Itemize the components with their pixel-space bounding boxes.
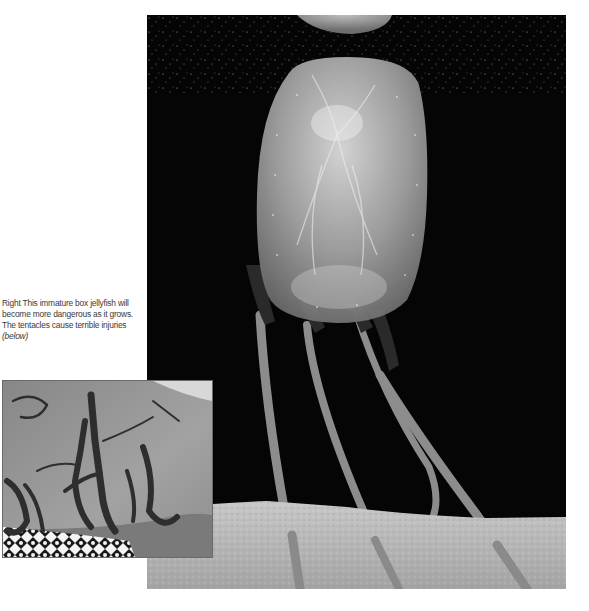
sting-injury-photo [3, 381, 212, 557]
caption-text: This immature box jellyfish will become … [2, 298, 133, 330]
cut-off-text-row [147, 606, 566, 611]
photo-caption: Right This immature box jellyfish will b… [2, 298, 142, 342]
caption-lead: Right [2, 298, 21, 308]
caption-tail: (below) [2, 331, 28, 341]
sting-scar-illustration [3, 381, 212, 557]
